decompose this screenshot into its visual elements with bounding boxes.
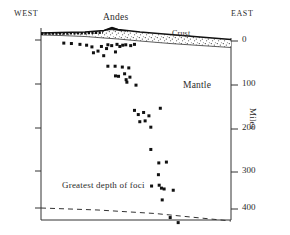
focus-point	[133, 109, 136, 112]
focus-point	[114, 65, 117, 68]
right-axis-ticks	[231, 41, 238, 209]
focus-point	[114, 74, 117, 77]
focus-point	[100, 45, 103, 48]
annotation-crust: Crust	[172, 29, 190, 38]
focus-point	[116, 43, 119, 46]
focus-point	[133, 43, 136, 46]
annotation-mantle: Mantle	[183, 80, 211, 90]
focus-point	[160, 187, 163, 190]
focus-point	[117, 75, 120, 78]
focus-point	[102, 54, 105, 57]
focus-point	[127, 66, 130, 69]
focus-point	[142, 111, 145, 114]
focus-point	[121, 66, 124, 69]
focus-point	[137, 113, 140, 116]
focus-point	[172, 189, 175, 192]
focus-point	[106, 65, 109, 68]
focus-point	[144, 119, 147, 122]
focus-point	[149, 148, 152, 151]
focus-point	[161, 198, 164, 201]
focus-point	[129, 44, 132, 47]
focus-point	[150, 185, 153, 188]
focus-point	[157, 173, 160, 176]
focus-point	[124, 43, 127, 46]
left-axis-ticks	[35, 40, 41, 208]
earthquake-foci-points	[62, 42, 179, 225]
greatest-depth-line	[41, 208, 231, 221]
focus-point	[123, 72, 126, 75]
focus-point	[110, 44, 113, 47]
annotation-greatest-depth-of-foci: Greatest depth of foci	[62, 180, 145, 190]
focus-point	[92, 51, 95, 54]
direction-label-east: EAST	[231, 9, 253, 18]
focus-point	[163, 187, 166, 190]
focus-point	[70, 42, 73, 45]
focus-point	[118, 45, 121, 48]
focus-point	[138, 120, 141, 123]
focus-point	[147, 114, 150, 117]
annotation-andes: Andes	[103, 12, 128, 22]
y-tick-label-200: 200	[242, 122, 256, 132]
focus-point	[135, 84, 138, 87]
plot-frame	[41, 28, 231, 220]
y-tick-label-400: 400	[242, 202, 256, 212]
focus-point	[157, 161, 160, 164]
focus-point	[78, 43, 81, 46]
focus-point	[149, 126, 152, 129]
direction-label-west: WEST	[14, 9, 38, 18]
y-tick-label-100: 100	[242, 78, 256, 88]
cross-section-figure: WEST EAST Andes Crust Mantle Greatest de…	[0, 0, 290, 235]
focus-point	[97, 50, 100, 53]
focus-point	[106, 43, 109, 46]
focus-point	[85, 44, 88, 47]
focus-point	[125, 81, 128, 84]
focus-point	[158, 184, 161, 187]
focus-point	[114, 50, 117, 53]
focus-point	[128, 76, 131, 79]
focus-point	[62, 42, 65, 45]
y-tick-label-300: 300	[242, 165, 256, 175]
focus-point	[90, 45, 93, 48]
focus-point	[165, 161, 168, 164]
y-tick-label-0: 0	[242, 34, 247, 44]
focus-point	[121, 44, 124, 47]
focus-point	[159, 107, 162, 110]
focus-point	[169, 216, 172, 219]
focus-point	[105, 47, 108, 50]
focus-point	[177, 221, 180, 224]
